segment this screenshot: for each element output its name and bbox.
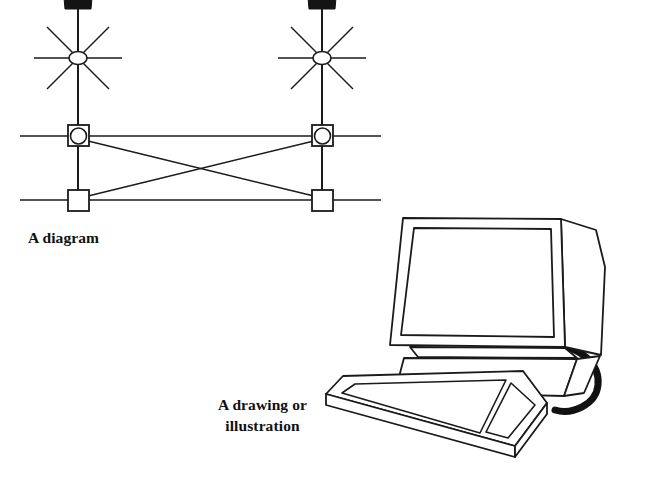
computer-illustration-graphic [300,195,656,485]
diagram-right-mast-group [278,0,366,200]
node-upper-left [68,125,89,146]
illustration-caption: A drawing or illustration [185,394,340,436]
diagram-left-mast-group [34,0,122,200]
illustration-figure [300,195,656,485]
node-upper-right-circle [315,128,331,144]
left-star-hub-icon [69,52,87,65]
right-mast-cap-icon [307,0,337,9]
node-upper-left-circle [71,128,87,144]
monitor-side-panel [561,219,605,355]
page-canvas: A diagram [0,0,656,485]
node-upper-right [312,125,333,146]
diagram-caption: A diagram [28,228,99,247]
monitor-screen [401,228,554,337]
right-star-hub-icon [313,52,331,65]
node-lower-left-square [68,190,89,211]
monitor-stand-top [410,347,577,358]
left-mast-cap-icon [63,0,93,9]
